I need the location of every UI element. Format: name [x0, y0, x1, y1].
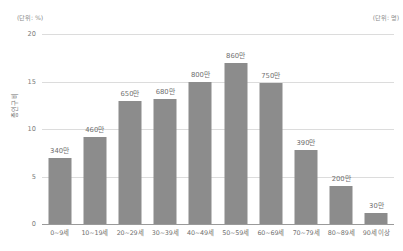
bar-value-label: 750만 — [261, 70, 280, 80]
y-axis-tick-label: 5 — [8, 173, 36, 181]
bar-value-label: 460만 — [85, 124, 104, 134]
x-axis-line — [42, 224, 394, 225]
bar[interactable] — [118, 101, 141, 225]
bar-value-label: 800만 — [191, 69, 210, 79]
x-axis-tick-label: 80~89세 — [328, 228, 355, 237]
bar[interactable] — [154, 99, 177, 224]
bar-slot: 460만 — [77, 34, 112, 224]
x-axis-tick-label: 20~29세 — [117, 228, 144, 237]
x-axis-tick-label: 30~39세 — [152, 228, 179, 237]
bar[interactable] — [330, 186, 353, 224]
bar[interactable] — [224, 63, 247, 225]
x-axis-tick-label: 90세 이상 — [363, 228, 390, 237]
bar[interactable] — [259, 83, 282, 224]
y-axis-title: 총인구비 — [10, 93, 19, 118]
bar-slot: 30만 — [359, 34, 394, 224]
bar-slot: 650만 — [112, 34, 147, 224]
bar[interactable] — [294, 150, 317, 224]
bar-slot: 750만 — [253, 34, 288, 224]
x-axis-tick-label: 70~79세 — [293, 228, 320, 237]
left-unit-caption: (단위: %) — [17, 13, 43, 22]
x-axis-tick-label: 40~49세 — [187, 228, 214, 237]
bar-slot: 200만 — [324, 34, 359, 224]
y-axis-tick-label: 10 — [8, 125, 36, 133]
bar[interactable] — [48, 158, 71, 225]
x-axis-tick-label: 10~19세 — [81, 228, 108, 237]
bar[interactable] — [365, 213, 388, 224]
bar-value-label: 650만 — [120, 88, 139, 98]
x-axis-tick-label: 60~69세 — [257, 228, 284, 237]
bar-slot: 800만 — [183, 34, 218, 224]
x-axis-tick-label: 50~59세 — [222, 228, 249, 237]
y-axis-tick-label: 0 — [8, 220, 36, 228]
bar[interactable] — [189, 82, 212, 225]
bar-value-label: 200만 — [332, 173, 351, 183]
y-axis-tick-label: 15 — [8, 78, 36, 86]
bar-slot: 860만 — [218, 34, 253, 224]
bar[interactable] — [83, 137, 106, 224]
y-axis-tick-label: 20 — [8, 30, 36, 38]
plot-area: 340만460만650만680만800만860만750만390만200만30만 — [42, 34, 394, 224]
bar-value-label: 390만 — [296, 137, 315, 147]
x-axis-tick-label: 0~9세 — [50, 228, 69, 237]
right-unit-caption: (단위: 명) — [373, 13, 399, 22]
bar-slot: 680만 — [148, 34, 183, 224]
bar-value-label: 30만 — [369, 200, 384, 210]
bar-value-label: 340만 — [50, 145, 69, 155]
bar-slot: 390만 — [288, 34, 323, 224]
bar-chart: (단위: %) (단위: 명) 총인구비 05101520 340만460만65… — [0, 0, 403, 251]
bar-slot: 340만 — [42, 34, 77, 224]
bar-value-label: 860만 — [226, 50, 245, 60]
bar-value-label: 680만 — [156, 86, 175, 96]
